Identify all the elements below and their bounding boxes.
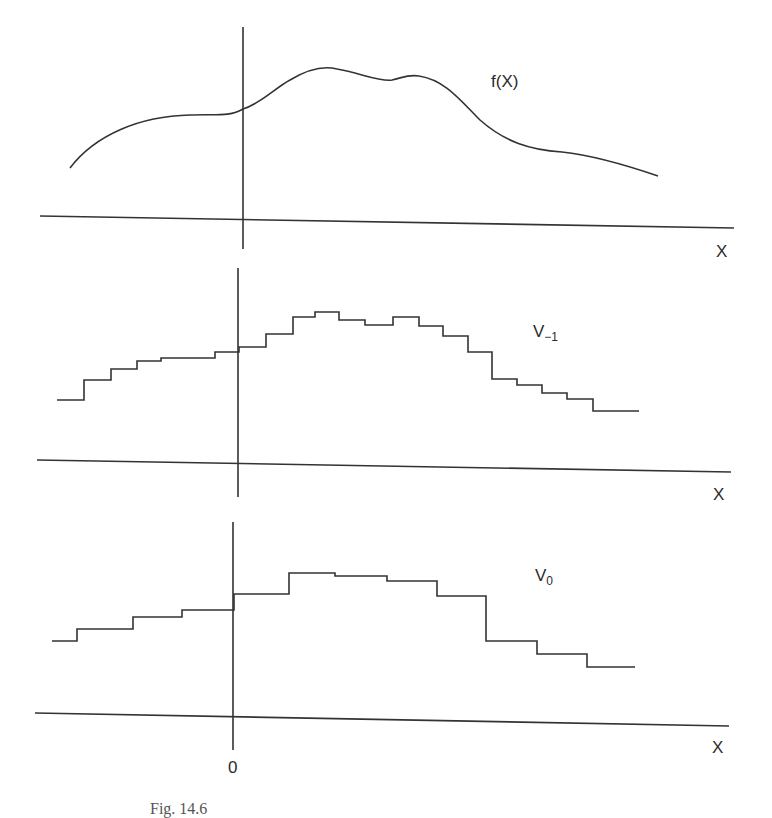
v0-x-axis-label-text: X: [712, 738, 723, 757]
v-1-label: V−1: [533, 323, 558, 343]
v-1-x-axis-label-text: X: [713, 485, 724, 504]
v-1-x-axis-label: X: [713, 486, 724, 503]
figure-caption: Fig. 14.6: [150, 800, 207, 818]
v-1-label-main: V: [533, 322, 544, 341]
v-1-label-sub: −1: [544, 330, 558, 344]
f-x-axis-label: X: [716, 243, 727, 260]
f-curve: [70, 68, 658, 176]
v0-label-sub: 0: [546, 574, 553, 588]
v0-label-main: V: [535, 566, 546, 585]
v-1-x-axis: [37, 460, 731, 472]
f-x-axis: [40, 216, 734, 228]
f-label-text: f(X): [491, 72, 518, 91]
v0-x-axis-label: X: [712, 739, 723, 756]
origin-label: 0: [228, 759, 237, 776]
origin-label-text: 0: [228, 758, 237, 777]
v0-x-axis: [35, 713, 729, 726]
f-x-axis-label-text: X: [716, 242, 727, 261]
v0-label: V0: [535, 567, 553, 587]
f-label: f(X): [491, 73, 518, 90]
